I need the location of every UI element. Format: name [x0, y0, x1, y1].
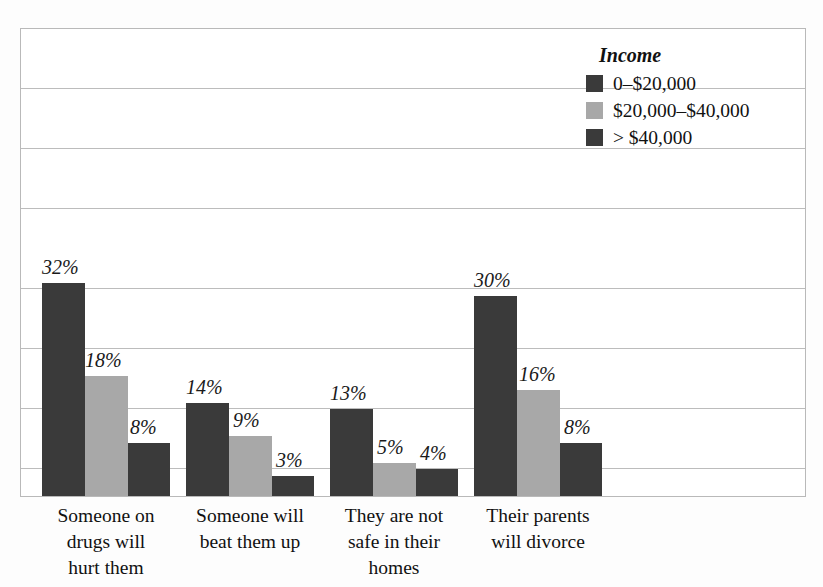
x-axis-category-line: beat them up [172, 529, 328, 555]
x-axis-category-line: will divorce [460, 529, 616, 555]
x-axis-category-line: safe in their [316, 529, 472, 555]
x-axis-category-line: homes [316, 555, 472, 581]
legend-item-label: > $40,000 [613, 128, 692, 148]
legend: Income 0–$20,000 $20,000–$40,000 > $40,0… [586, 44, 801, 151]
legend-item-label: 0–$20,000 [613, 74, 696, 94]
x-axis-category-line: They are not [316, 503, 472, 529]
legend-title: Income [599, 44, 801, 66]
bar [186, 403, 229, 496]
bar [330, 409, 373, 496]
bar-value-label: 9% [233, 410, 260, 430]
legend-item: > $40,000 [586, 124, 801, 151]
x-axis-category-label: Someone on drugs will hurt them [28, 503, 184, 581]
x-axis-category-line: drugs will [28, 529, 184, 555]
bar [85, 376, 128, 496]
bar-chart-figure: 32% 18% 8% 14% 9% 3% 13% 5% 4% 30% 16% 8… [0, 0, 823, 587]
bar [560, 443, 602, 496]
x-axis-category-label: Their parents will divorce [460, 503, 616, 555]
bar-value-label: 8% [564, 417, 591, 437]
bar-value-label: 16% [519, 364, 556, 384]
x-axis-category-line: Someone on [28, 503, 184, 529]
bar [373, 463, 416, 496]
bar [474, 296, 517, 496]
bar [128, 443, 170, 496]
bar [229, 436, 272, 496]
x-axis-category-line: hurt them [28, 555, 184, 581]
bar-value-label: 30% [474, 270, 511, 290]
bar [42, 283, 85, 496]
bar [272, 476, 314, 496]
legend-item-label: $20,000–$40,000 [613, 101, 750, 121]
bar-value-label: 32% [42, 257, 79, 277]
x-axis-category-label: Someone will beat them up [172, 503, 328, 555]
bar-value-label: 8% [130, 417, 157, 437]
legend-swatch-icon [586, 129, 603, 146]
bar-value-label: 4% [420, 443, 447, 463]
legend-swatch-icon [586, 102, 603, 119]
bar-value-label: 13% [330, 383, 367, 403]
bar [416, 469, 458, 496]
legend-swatch-icon [586, 75, 603, 92]
bar-value-label: 18% [85, 350, 122, 370]
bar-value-label: 5% [377, 437, 404, 457]
x-axis-category-label: They are not safe in their homes [316, 503, 472, 581]
bar [517, 390, 560, 496]
legend-item: $20,000–$40,000 [586, 97, 801, 124]
bar-value-label: 3% [276, 450, 303, 470]
bar-value-label: 14% [186, 377, 223, 397]
x-axis-labels: Someone on drugs will hurt them Someone … [20, 503, 806, 587]
x-axis-category-line: Someone will [172, 503, 328, 529]
legend-item: 0–$20,000 [586, 70, 801, 97]
x-axis-category-line: Their parents [460, 503, 616, 529]
